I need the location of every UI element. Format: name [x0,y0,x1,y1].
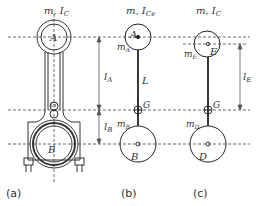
caption-a: (a) [6,187,21,200]
panel-c-point-E: E [209,46,218,57]
panel-c-point-G: G [213,100,220,110]
dimension-lA-lB [97,37,101,144]
panel-b-point-A: A [129,29,137,40]
panel-b-point-G: G [143,100,150,110]
caption-c: (c) [193,187,208,200]
dimension-lA-label: lA [104,71,112,84]
panel-b-mass-B: mB [117,119,131,130]
dimension-lE [238,44,242,110]
panel-a-point-G: G [50,100,57,109]
dimension-lE-label: lE [243,71,251,84]
connecting-rod-diagram: m, IC A G B (a) lA lB m, ICe A mA L G mB… [0,0,256,206]
reference-lines [8,14,250,182]
panel-c-mass-D: mD [186,119,200,130]
dimension-lB-label: lB [104,121,112,134]
panel-b-rod-label: L [141,75,149,86]
panel-b-mass-A: mA [117,42,131,53]
panel-c-model [190,31,226,162]
panel-a-point-B: B [47,144,55,155]
caption-b: (b) [121,187,137,200]
panel-b-point-B: B [130,151,138,162]
panel-b-top-label: m, ICe [126,5,155,18]
panel-a-point-A: A [49,32,57,43]
panel-a-top-label: m, IC [44,5,70,18]
panel-c-top-label: m, IC [196,5,222,18]
panel-c-point-D: D [198,151,207,162]
